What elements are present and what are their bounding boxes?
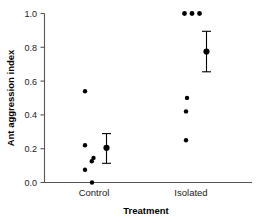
data-point	[197, 11, 202, 16]
data-point	[83, 168, 87, 172]
x-axis-title: Treatment	[123, 205, 169, 216]
mean-marker	[103, 145, 109, 151]
x-category-label-control: Control	[79, 187, 110, 198]
series-control-points	[83, 89, 96, 185]
scatter-plot: 1.0 0.8 0.6 0.4 0.2 0.0 Ant aggression i…	[0, 0, 260, 223]
data-point	[185, 96, 189, 100]
data-point	[182, 11, 187, 16]
chart-figure: 1.0 0.8 0.6 0.4 0.2 0.0 Ant aggression i…	[0, 0, 260, 223]
data-point	[184, 109, 188, 113]
data-point	[83, 89, 87, 93]
y-tick-label-0.4: 0.4	[24, 110, 37, 120]
y-axis-title: Ant aggression index	[5, 49, 16, 146]
isolated-mean-errorbar	[202, 31, 211, 72]
series-isolated-points	[182, 11, 202, 142]
y-tick-label-1.0: 1.0	[24, 9, 37, 19]
y-tick-label-0.6: 0.6	[24, 77, 37, 87]
data-point	[90, 180, 94, 184]
data-point	[190, 11, 195, 16]
data-point	[83, 143, 87, 147]
data-point	[90, 159, 94, 163]
y-tick-label-0.2: 0.2	[24, 144, 37, 154]
control-mean-errorbar	[102, 134, 111, 164]
y-tick-label-0.0: 0.0	[24, 178, 37, 188]
x-category-label-isolated: Isolated	[174, 187, 207, 198]
y-tick-label-0.8: 0.8	[24, 43, 37, 53]
data-point	[184, 138, 188, 142]
mean-marker	[203, 48, 209, 54]
